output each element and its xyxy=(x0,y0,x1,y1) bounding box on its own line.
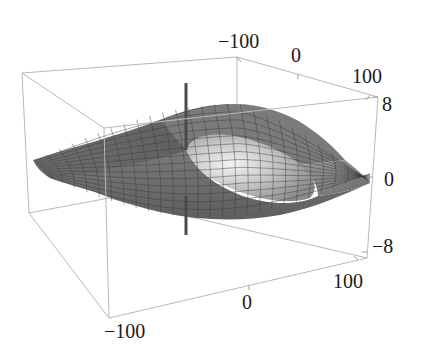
box-edge xyxy=(109,258,367,318)
bottom-axis-label-100: 100 xyxy=(333,270,363,292)
z-axis-label-neg8: −8 xyxy=(372,235,393,257)
bottom-axis-label-neg100: −100 xyxy=(104,320,145,342)
box-edge xyxy=(29,198,109,213)
tick-bottom-100 xyxy=(354,256,358,260)
box-edge xyxy=(22,57,237,73)
z-axis-label-8: 8 xyxy=(382,93,392,115)
surface xyxy=(33,104,370,219)
top-axis-label-0: 0 xyxy=(291,44,301,66)
bottom-axis-label-0: 0 xyxy=(242,291,252,313)
top-axis-label-100: 100 xyxy=(352,65,382,87)
box-edge xyxy=(22,73,104,128)
surface-plot: −100 0 100 8 0 −8 −100 0 100 xyxy=(0,0,422,353)
top-axis-label-neg100: −100 xyxy=(218,30,259,52)
z-axis-label-0: 0 xyxy=(384,168,394,190)
box-edge xyxy=(22,73,29,213)
box-edge xyxy=(29,213,109,318)
